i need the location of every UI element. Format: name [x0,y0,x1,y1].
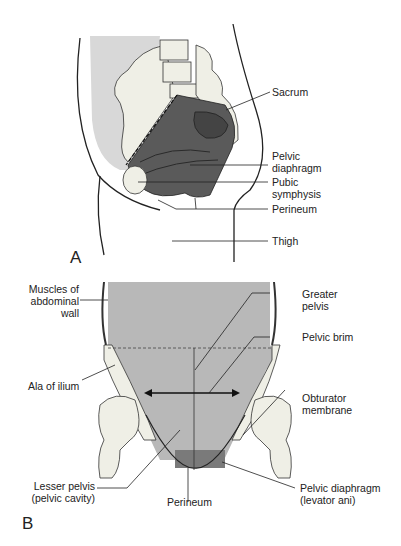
label-thigh: Thigh [272,235,298,247]
label-line: wall [61,307,79,319]
label-line: abdominal [31,295,79,307]
label-line: membrane [302,404,352,416]
label-line: (pelvic cavity) [31,492,95,504]
label-line: Greater [302,288,338,300]
label-line: Pelvic [272,150,300,162]
label-sacrum: Sacrum [272,86,308,98]
pelvis-illustration [0,0,401,546]
panel-letter-b: B [22,514,33,534]
label-obturator-membrane: Obturatormembrane [302,392,352,416]
label-ala-of-ilium: Ala of ilium [28,380,79,392]
label-pubic-symphysis: Pubicsymphysis [272,176,321,200]
label-perineum-a: Perineum [272,203,317,215]
label-pelvic-brim: Pelvic brim [302,331,353,343]
panel-a-drawing [77,24,270,262]
label-muscles-abdominal-wall: Muscles ofabdominalwall [29,283,79,319]
label-line: Pelvic diaphragm [300,482,381,494]
label-pelvic-diaphragm-b: Pelvic diaphragm(levator ani) [300,482,381,506]
label-line: Lesser pelvis [34,480,95,492]
label-lesser-pelvis: Lesser pelvis(pelvic cavity) [31,480,95,504]
label-line: Pubic [272,176,298,188]
label-line: diaphragm [272,162,322,174]
label-greater-pelvis: Greaterpelvis [302,288,338,312]
panel-b-drawing [80,282,295,502]
label-perineum-b: Perineum [167,496,212,508]
label-line: pelvis [302,300,329,312]
label-line: symphysis [272,188,321,200]
panel-letter-a: A [70,248,81,268]
label-line: (levator ani) [300,494,355,506]
label-pelvic-diaphragm-a: Pelvicdiaphragm [272,150,322,174]
label-line: Muscles of [29,283,79,295]
label-line: Obturator [302,392,346,404]
